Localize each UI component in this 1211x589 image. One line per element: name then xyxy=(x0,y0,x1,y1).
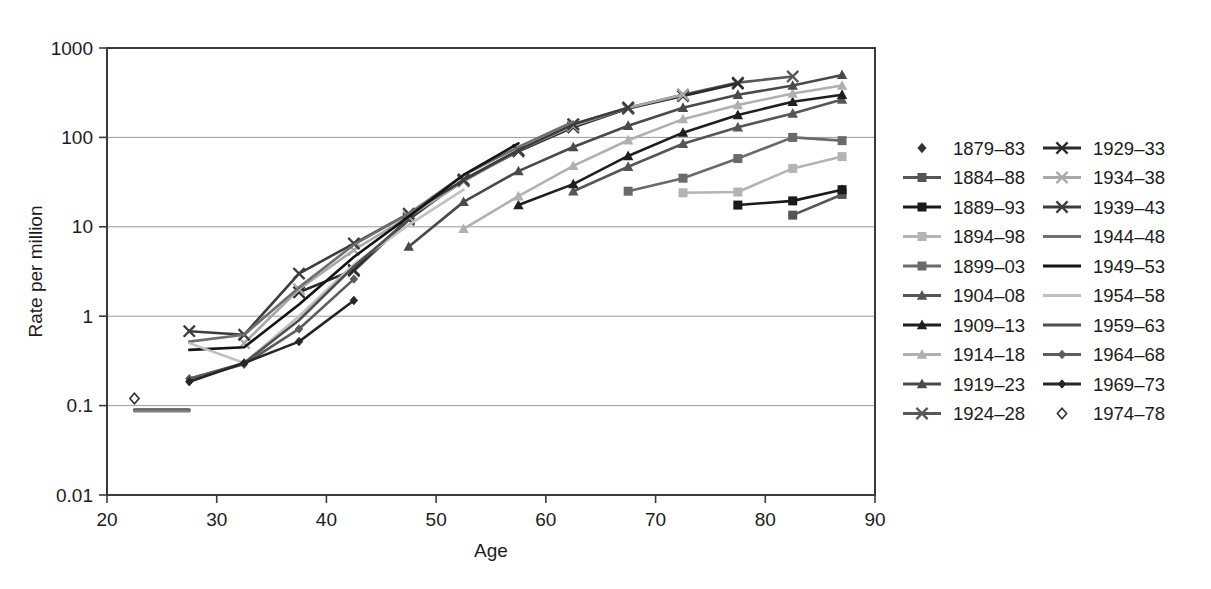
data-point-marker xyxy=(838,185,847,194)
legend-item[interactable]: 1959–63 xyxy=(1043,315,1165,336)
legend-item[interactable]: 1904–08 xyxy=(903,285,1025,306)
series-line xyxy=(409,75,842,247)
series-1889-93 xyxy=(733,185,846,209)
legend-marker-sample xyxy=(918,262,927,271)
legend-label: 1909–13 xyxy=(953,315,1025,336)
legend-marker-sample xyxy=(918,173,927,182)
series-line xyxy=(189,279,354,379)
legend-label: 1959–63 xyxy=(1093,315,1165,336)
legend-marker-sample xyxy=(1057,408,1066,418)
legend-item[interactable]: 1899–03 xyxy=(903,256,1025,277)
data-point-marker xyxy=(733,154,742,163)
data-point-marker xyxy=(838,152,847,161)
legend-label: 1949–53 xyxy=(1093,256,1165,277)
legend-item[interactable]: 1909–13 xyxy=(903,315,1025,336)
legend-marker-sample xyxy=(1058,380,1065,388)
legend-label: 1884–88 xyxy=(953,167,1025,188)
data-point-marker xyxy=(130,393,139,403)
chart-canvas: 0.010.111010010002030405060708090AgeRate… xyxy=(0,0,1211,589)
legend-marker-sample xyxy=(1058,350,1065,358)
data-point-marker xyxy=(838,136,847,145)
x-tick-label: 20 xyxy=(96,509,117,530)
series-line xyxy=(354,76,793,271)
x-tick-label: 70 xyxy=(645,509,666,530)
data-point-marker xyxy=(293,268,304,279)
legend-item[interactable]: 1944–48 xyxy=(1043,226,1165,247)
legend-label: 1904–08 xyxy=(953,285,1025,306)
series-1904-08 xyxy=(568,94,847,195)
series-line xyxy=(793,194,842,215)
legend-label: 1974–78 xyxy=(1093,403,1165,424)
legend-label: 1944–48 xyxy=(1093,226,1165,247)
legend-item[interactable]: 1964–68 xyxy=(1043,344,1165,365)
y-tick-label: 0.01 xyxy=(56,485,93,506)
series-line xyxy=(299,84,738,293)
legend-label: 1934–38 xyxy=(1093,167,1165,188)
data-point-marker xyxy=(733,188,742,197)
data-point-marker xyxy=(679,174,688,183)
legend-item[interactable]: 1934–38 xyxy=(1043,167,1165,188)
legend-label: 1964–68 xyxy=(1093,344,1165,365)
y-axis-title: Rate per million xyxy=(25,206,46,338)
legend-item[interactable]: 1969–73 xyxy=(1043,374,1165,395)
legend-item[interactable]: 1879–83 xyxy=(917,138,1025,159)
legend-item[interactable]: 1974–78 xyxy=(1057,403,1165,424)
y-tick-label: 100 xyxy=(61,127,93,148)
legend-label: 1924–28 xyxy=(953,403,1025,424)
x-tick-label: 30 xyxy=(206,509,227,530)
series-1974-78 xyxy=(130,393,139,403)
data-point-marker xyxy=(458,223,468,233)
data-point-marker xyxy=(837,70,847,80)
series-line xyxy=(683,157,842,193)
legend-group: 1879–831929–331884–881934–381889–931939–… xyxy=(903,138,1165,425)
x-tick-label: 40 xyxy=(316,509,337,530)
legend-label: 1919–23 xyxy=(953,374,1025,395)
series-group xyxy=(130,70,847,411)
data-point-marker xyxy=(788,133,797,142)
legend-label: 1899–03 xyxy=(953,256,1025,277)
legend-label: 1969–73 xyxy=(1093,374,1165,395)
x-tick-label: 60 xyxy=(535,509,556,530)
x-tick-label: 90 xyxy=(864,509,885,530)
legend-item[interactable]: 1919–23 xyxy=(903,374,1025,395)
series-1924-28 xyxy=(348,71,798,277)
legend-label: 1894–98 xyxy=(953,226,1025,247)
legend-item[interactable]: 1939–43 xyxy=(1043,197,1165,218)
chart-figure: 0.010.111010010002030405060708090AgeRate… xyxy=(0,0,1211,589)
legend-label: 1879–83 xyxy=(953,138,1025,159)
legend-label: 1914–18 xyxy=(953,344,1025,365)
y-tick-label: 0.1 xyxy=(67,395,93,416)
data-point-marker xyxy=(788,211,797,220)
legend-marker-sample xyxy=(917,143,926,153)
x-tick-label: 50 xyxy=(426,509,447,530)
legend-label: 1929–33 xyxy=(1093,138,1165,159)
y-tick-label: 1000 xyxy=(51,38,93,59)
data-point-marker xyxy=(733,201,742,210)
legend-item[interactable]: 1954–58 xyxy=(1043,285,1165,306)
legend-item[interactable]: 1889–93 xyxy=(903,197,1025,218)
legend-marker-sample xyxy=(918,232,927,241)
axis-labels-group: 0.010.111010010002030405060708090AgeRate… xyxy=(25,38,886,562)
y-tick-label: 1 xyxy=(82,306,93,327)
legend-label: 1939–43 xyxy=(1093,197,1165,218)
series-1894-98 xyxy=(679,152,847,197)
plot-frame xyxy=(107,48,875,495)
legend-item[interactable]: 1929–33 xyxy=(1043,138,1165,159)
legend-item[interactable]: 1949–53 xyxy=(1043,256,1165,277)
x-tick-label: 80 xyxy=(755,509,776,530)
data-point-marker xyxy=(788,164,797,173)
y-tick-label: 10 xyxy=(72,216,93,237)
legend-item[interactable]: 1914–18 xyxy=(903,344,1025,365)
legend-item[interactable]: 1884–88 xyxy=(903,167,1025,188)
plot-frame-group xyxy=(107,48,875,495)
data-point-marker xyxy=(624,187,633,196)
legend-label: 1889–93 xyxy=(953,197,1025,218)
legend-marker-sample xyxy=(918,203,927,212)
data-point-marker xyxy=(679,188,688,197)
axis-ticks-group xyxy=(99,48,875,503)
x-axis-title: Age xyxy=(474,540,508,561)
legend-item[interactable]: 1924–28 xyxy=(903,403,1025,424)
legend-item[interactable]: 1894–98 xyxy=(903,226,1025,247)
legend-label: 1954–58 xyxy=(1093,285,1165,306)
series-1964-68 xyxy=(186,275,358,383)
